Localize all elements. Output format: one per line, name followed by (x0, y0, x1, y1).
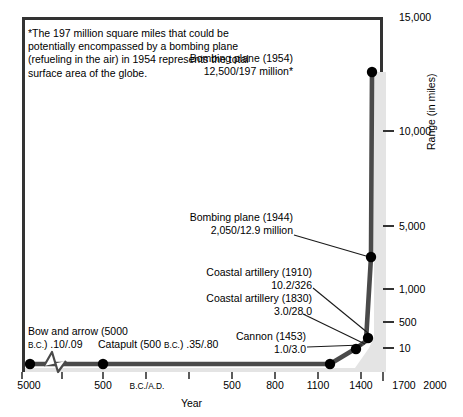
chart-canvas: *The 197 million square miles that could… (0, 0, 463, 417)
annotation-era-label: B.C. (28, 341, 44, 350)
y-tick-label-10: 10 (399, 342, 411, 354)
y-tick-label-500: 500 (399, 316, 417, 328)
annotation-year-prefix: Catapult (500 (98, 338, 164, 350)
annotation-line-1: Coastal artillery (1830) (130, 292, 312, 305)
annotation-year-suffix: ) (180, 338, 184, 350)
x-tick-label-2000: 2000 (407, 379, 463, 391)
annotation-line-1: Catapult (500 B.C.) (98, 338, 183, 350)
annotation-era-label: B.C. (164, 341, 180, 350)
annotation-line-2: 10.2/326 (130, 279, 312, 292)
annotation-line-1: Coastal artillery (1910) (130, 266, 312, 279)
annotation-coastal-artillery-1830: Coastal artillery (1830) 3.0/28.0 (130, 292, 312, 317)
annotation-line-2: 3.0/28.0 (130, 305, 312, 318)
annotation-line-3: .10/.09 (50, 338, 82, 350)
annotation-bombing-plane-1944: Bombing plane (1944) 2,050/12.9 million (118, 211, 293, 236)
annotation-year-suffix: ) (44, 338, 48, 350)
annotation-line-2: 12,500/197 million* (118, 65, 293, 78)
annotation-line-2: 2,050/12.9 million (118, 224, 293, 237)
x-axis-title: Year (0, 397, 383, 409)
annotation-line-2: .35/.80 (186, 338, 218, 350)
y-tick-label-15000: 15,000 (399, 11, 431, 23)
annotation-line-1: Bow and arrow (28, 325, 98, 337)
annotation-bombing-plane-1954: Bombing plane (1954) 12,500/197 million* (118, 52, 293, 77)
y-tick-label-5000: 5,000 (399, 220, 425, 232)
y-axis-title: Range (in miles) (425, 74, 437, 150)
annotation-line-1: Bombing plane (1944) (118, 211, 293, 224)
x-tick-label-5000bc: 5000 (0, 379, 58, 391)
x-tick-label-bc-ad: B.C./A.D. (117, 381, 177, 391)
annotation-coastal-artillery-1910: Coastal artillery (1910) 10.2/326 (130, 266, 312, 291)
annotation-catapult: Catapult (500 B.C.) .35/.80 (98, 338, 223, 353)
y-tick-label-1000: 1,000 (399, 283, 425, 295)
annotation-year-prefix: (5000 (101, 325, 128, 337)
annotation-line-1: Bombing plane (1954) (118, 52, 293, 65)
